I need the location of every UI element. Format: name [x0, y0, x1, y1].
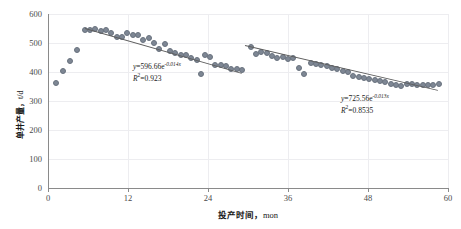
fit-2-equation: y=725.56e-0.013x: [341, 94, 389, 103]
fit-2-r-squared: R2=0.8535: [341, 104, 389, 116]
x-tickmark-24: [208, 189, 209, 192]
x-axis-title-text: 投产时间，: [218, 210, 263, 220]
data-point: [151, 40, 157, 46]
chart-container: 0100200300400500600 01224364860 y=596.66…: [0, 0, 461, 229]
gridline-x-60: [448, 14, 449, 188]
data-point: [67, 58, 73, 64]
x-tickmark-12: [128, 189, 129, 192]
x-tick-36: 36: [276, 194, 300, 203]
data-point: [301, 71, 307, 77]
gridline-y-400: [48, 72, 448, 73]
x-tick-60: 60: [436, 194, 460, 203]
data-point: [296, 65, 302, 71]
x-axis-title: 投产时间，mon: [188, 208, 308, 220]
data-point: [198, 71, 204, 77]
data-point: [53, 80, 59, 86]
gridline-y-100: [48, 159, 448, 160]
x-tick-48: 48: [356, 194, 380, 203]
x-axis-unit: mon: [263, 210, 278, 220]
x-tick-0: 0: [36, 194, 60, 203]
y-tick-600: 600: [18, 10, 42, 19]
fit-2-annotation: y=725.56e-0.013xR2=0.8535: [341, 92, 389, 115]
x-tickmark-60: [448, 189, 449, 192]
y-tick-100: 100: [18, 155, 42, 164]
x-tickmark-36: [288, 189, 289, 192]
y-axis-title: 单井产量，t/d: [14, 91, 25, 139]
gridline-y-600: [48, 14, 448, 15]
x-tick-24: 24: [196, 194, 220, 203]
y-axis-title-text: 单井产量，: [16, 99, 25, 139]
x-tickmark-0: [48, 189, 49, 192]
data-point: [146, 35, 152, 41]
y-tick-0: 0: [18, 184, 42, 193]
x-tickmark-48: [368, 189, 369, 192]
fit-1-annotation: y=596.66e-0.014xR2=0.923: [133, 60, 181, 83]
fit-1-r-squared: R2=0.923: [133, 72, 181, 84]
x-axis-line: [48, 188, 449, 189]
y-axis-line: [48, 14, 49, 189]
y-tick-500: 500: [18, 39, 42, 48]
y-axis-unit: t/d: [16, 91, 25, 99]
fit-1-equation: y=596.66e-0.014x: [133, 62, 181, 71]
gridline-y-200: [48, 130, 448, 131]
data-point: [162, 41, 168, 47]
x-tick-12: 12: [116, 194, 140, 203]
gridline-x-36: [288, 14, 289, 188]
gridline-x-24: [208, 14, 209, 188]
y-tick-400: 400: [18, 68, 42, 77]
data-point: [207, 54, 213, 60]
